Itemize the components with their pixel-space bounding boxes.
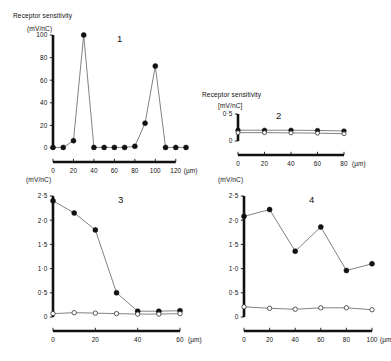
chart-2-y-axis-unit: [mV/nC] [218,102,243,110]
chart-4-x-tick-label: 20 [266,336,274,343]
chart-4-y-tick-label: 1·0 [229,265,239,272]
chart-3-data-point-open [93,311,97,315]
chart-1-data-point-filled [122,145,127,150]
chart-3-y-tick-label: 2·5 [38,192,48,199]
chart-3-data-point-open [178,311,182,315]
chart-panel-2: Receptor sensitivity[mV/nC]200·502040608… [196,88,391,168]
chart-1-data-point-filled [132,144,137,149]
chart-3-x-tick-label: 40 [134,336,142,343]
chart-3-data-point-filled [51,198,56,203]
chart-4-x-tick-label: 0 [242,336,246,343]
chart-2-data-point-open [316,131,320,135]
chart-panel-4: (mV/nC)400·51·01·52·02·5020406080100(µm) [196,172,391,352]
chart-4-data-point-open [319,306,323,310]
chart-4-data-point-filled [242,214,247,219]
chart-1-data-point-filled [61,145,66,150]
chart-1-data-point-filled [173,145,178,150]
chart-3-panel-number: 3 [118,194,123,205]
chart-1-data-point-filled [51,145,56,150]
chart-4-canvas: (mV/nC)400·51·01·52·02·5020406080100(µm) [196,172,391,352]
chart-2-axis-title: Receptor sensitivity [202,91,262,99]
chart-1-series-filled-line [53,35,186,147]
chart-1-canvas: Receptor sensitivity(mV/nC)1020406080100… [0,0,200,175]
chart-1-data-point-filled [91,145,96,150]
chart-2-x-tick-label: 60 [314,160,322,167]
chart-1-data-point-filled [143,121,148,126]
chart-3-x-tick-label: 60 [176,336,184,343]
chart-2-panel-number: 2 [276,110,281,121]
chart-4-data-point-open [267,306,271,310]
chart-3-y-tick-label: 1·0 [38,265,48,272]
figure-panels: Receptor sensitivity(mV/nC)1020406080100… [0,0,391,361]
chart-1-y-tick-label: 0 [44,144,48,151]
chart-4-x-tick-label: 100 [367,336,378,343]
chart-2-x-tick-label: 20 [261,160,269,167]
chart-4-x-tick-label: 80 [343,336,351,343]
chart-2-y-tick-label: 0·5 [223,110,233,117]
chart-1-y-tick-label: 20 [40,122,48,129]
chart-4-x-tick-label: 40 [292,336,300,343]
chart-3-x-tick-label: 20 [92,336,100,343]
chart-1-data-point-filled [71,138,76,143]
chart-4-data-point-open [370,308,374,312]
chart-2-data-point-open [289,131,293,135]
chart-2-canvas: Receptor sensitivity[mV/nC]200·502040608… [196,88,391,168]
chart-3-y-tick-label: 1·5 [38,241,48,248]
chart-1-data-point-filled [153,64,158,69]
chart-2-x-tick-label: 80 [340,160,348,167]
chart-4-data-point-filled [370,261,375,266]
chart-3-y-tick-label: 0·5 [38,289,48,296]
chart-2-x-tick-label: 0 [236,160,240,167]
chart-3-x-tick-label: 0 [51,336,55,343]
chart-4-x-axis-unit: (µm) [380,336,391,344]
chart-3-y-tick-label: 2·0 [38,217,48,224]
chart-4-panel-number: 4 [309,194,314,205]
chart-1-data-point-filled [81,33,86,38]
chart-4-series-open-line [244,307,372,310]
chart-1-panel-number: 1 [117,33,122,44]
chart-3-data-point-open [72,310,76,314]
chart-4-data-point-open [293,307,297,311]
chart-2-data-point-open [236,131,240,135]
chart-3-y-tick-label: 0 [44,313,48,320]
chart-4-y-tick-label: 2·5 [229,192,239,199]
chart-1-y-tick-label: 40 [40,99,48,106]
chart-3-data-point-filled [93,227,98,232]
chart-4-x-tick-label: 60 [317,336,325,343]
chart-3-data-point-open [135,312,139,316]
chart-3-data-point-filled [72,210,77,215]
chart-1-y-tick-label: 60 [40,77,48,84]
chart-4-data-point-filled [344,268,349,273]
chart-1-y-tick-label: 80 [40,54,48,61]
chart-4-data-point-open [242,305,246,309]
chart-2-y-tick-label: 0 [229,137,233,144]
chart-2-x-tick-label: 40 [287,160,295,167]
chart-2-x-axis-unit: (µm) [352,160,366,168]
chart-4-series-filled-line [244,210,372,271]
chart-4-data-point-open [344,306,348,310]
chart-3-data-point-open [114,311,118,315]
chart-1-data-point-filled [163,145,168,150]
chart-panel-3: (mV/nC)300·51·01·52·02·50204060(µm) [0,172,200,352]
chart-1-axis-title: Receptor sensitivity [13,12,73,20]
chart-4-y-axis-unit: (mV/nC) [218,176,243,184]
chart-4-data-point-filled [293,249,298,254]
chart-4-y-tick-label: 1·5 [229,241,239,248]
chart-1-data-point-filled [112,145,117,150]
chart-4-y-tick-label: 2·0 [229,217,239,224]
chart-4-y-tick-label: 0 [235,313,239,320]
chart-4-data-point-filled [318,224,323,229]
chart-panel-1: Receptor sensitivity(mV/nC)1020406080100… [0,0,200,175]
chart-2-data-point-open [263,131,267,135]
chart-3-canvas: (mV/nC)300·51·01·52·02·50204060(µm) [0,172,200,352]
chart-4-y-tick-label: 0·5 [229,289,239,296]
chart-3-data-point-filled [114,290,119,295]
chart-3-data-point-open [157,312,161,316]
chart-1-data-point-filled [184,145,189,150]
chart-1-data-point-filled [102,145,107,150]
chart-2-data-point-open [342,132,346,136]
chart-4-data-point-filled [267,207,272,212]
chart-3-data-point-open [51,311,55,315]
chart-3-y-axis-unit: (mV/nC) [26,176,51,184]
chart-1-y-tick-label: 100 [36,31,47,38]
